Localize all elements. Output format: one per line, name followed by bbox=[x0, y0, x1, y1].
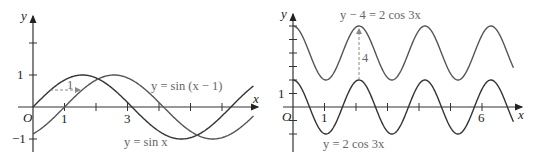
right-y-tick-1: 1 bbox=[278, 86, 285, 101]
left-y-axis-label: y bbox=[19, 8, 27, 23]
right-shift-label: 4 bbox=[362, 51, 369, 65]
right-y-axis-label: y bbox=[279, 6, 287, 21]
right-x-tick-1: 1 bbox=[321, 110, 328, 125]
right-origin-label: O bbox=[282, 109, 292, 124]
right-x-axis-label: x bbox=[517, 107, 524, 122]
left-x-axis-label: x bbox=[252, 91, 259, 106]
2cos3x-plus-4-curve bbox=[293, 26, 514, 80]
right-chart: y x O 1 6 1 4 y − 4 = 2 cos 3x y = 2 cos… bbox=[278, 6, 524, 152]
left-curve-base-label: y = sin x bbox=[124, 135, 168, 149]
left-chart: y x O 1 3 1 −1 1 y = sin (x − 1) y = sin… bbox=[12, 8, 259, 152]
left-shift-label: 1 bbox=[67, 78, 73, 92]
left-origin-label: O bbox=[23, 110, 33, 125]
left-x-tick-3: 3 bbox=[124, 111, 131, 126]
left-y-tick-minus-1: −1 bbox=[12, 131, 26, 146]
left-curve-shifted-label: y = sin (x − 1) bbox=[151, 79, 222, 93]
left-x-tick-1: 1 bbox=[61, 111, 68, 126]
figure-canvas: y x O 1 3 1 −1 1 y = sin (x − 1) y = sin… bbox=[0, 0, 536, 165]
right-curve-base-label: y = 2 cos 3x bbox=[323, 137, 385, 151]
right-x-tick-6: 6 bbox=[478, 110, 485, 125]
left-y-tick-1: 1 bbox=[17, 67, 24, 82]
right-curve-shifted-label: y − 4 = 2 cos 3x bbox=[340, 8, 422, 22]
